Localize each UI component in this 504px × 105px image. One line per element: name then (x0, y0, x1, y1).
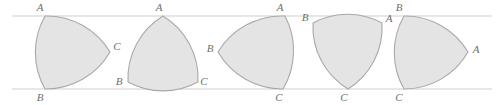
vertex-label-a: A (472, 43, 480, 55)
vertex-label-b: B (302, 11, 309, 23)
vertex-label-c: C (395, 91, 403, 103)
vertex-label-b: B (396, 1, 403, 13)
vertex-label-a: A (276, 1, 284, 13)
reuleaux-position-1 (35, 16, 110, 89)
vertex-label-b: B (207, 42, 214, 54)
vertex-label-a: A (36, 1, 44, 13)
vertex-label-c: C (113, 40, 121, 52)
figure-canvas: ABCABCABCBACBCA (0, 0, 504, 105)
reuleaux-position-4 (313, 14, 382, 89)
vertex-label-c: C (275, 91, 283, 103)
reuleaux-rolling-figure: ABCABCABCBACBCA (0, 0, 504, 105)
vertex-label-c: C (340, 91, 348, 103)
vertex-label-b: B (116, 75, 123, 87)
reuleaux-position-5 (394, 16, 468, 89)
vertex-label-c: C (200, 75, 208, 87)
reuleaux-position-2 (128, 16, 198, 91)
vertex-label-a: A (155, 1, 163, 13)
reuleaux-position-3 (218, 16, 294, 89)
vertex-label-a: A (385, 12, 393, 24)
vertex-label-b: B (37, 91, 44, 103)
